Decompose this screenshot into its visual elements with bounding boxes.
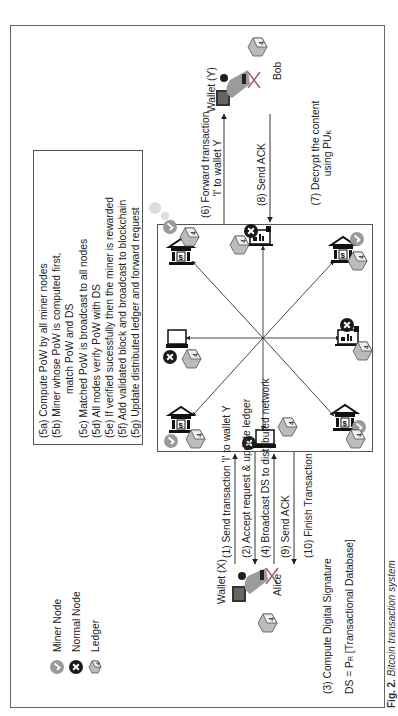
network-nodes: $ — [0, 0, 398, 716]
alice-name-label: Alice — [272, 574, 284, 596]
step-2-label: (2) Accept request & update ledger — [241, 399, 253, 558]
miner-node-icon — [350, 232, 364, 246]
step-7-label: (7) Decrypt the content using PUK — [310, 88, 335, 218]
step-8-label: (8) Send ACK — [256, 143, 268, 206]
step-6-label: (6) Forward transaction 'I' to wallet Y — [200, 118, 224, 218]
normal-node-icon — [163, 350, 177, 364]
alice-wallet-label: Wallet (X) — [216, 559, 228, 604]
ledger-icon — [278, 418, 297, 436]
miner-node-icon — [164, 434, 178, 448]
ledger-icon — [182, 350, 201, 368]
step-9-label: (9) Send ACK — [280, 495, 292, 558]
step-1-label: (1) Send transaction 'I' to wallet Y — [221, 405, 233, 558]
miner-node-icon — [163, 220, 177, 234]
step-10-label: (10) Finish Transaction — [303, 453, 315, 558]
digital-signature-formula: DS = PR [Transactional Database] — [344, 539, 357, 694]
network-node-bank-top-left — [169, 407, 193, 433]
figure-caption: Fig. 2. Bitcoin transaction system — [386, 560, 397, 708]
normal-node-icon — [340, 318, 354, 332]
normal-node-icon — [244, 224, 258, 238]
bob-name-label: Bob — [272, 62, 284, 80]
figure-stage: Miner Node Normal Node 4 Ledger (5a) Com… — [0, 0, 398, 716]
bob-wallet-label: Wallet (Y) — [206, 67, 218, 112]
step-3-label: (3) Compute Digital Signature — [322, 558, 334, 694]
ledger-icon — [230, 236, 249, 254]
step-4-label: (4) Broadcast DS to distributed network — [260, 378, 272, 558]
network-node-laptop-top — [166, 330, 188, 348]
